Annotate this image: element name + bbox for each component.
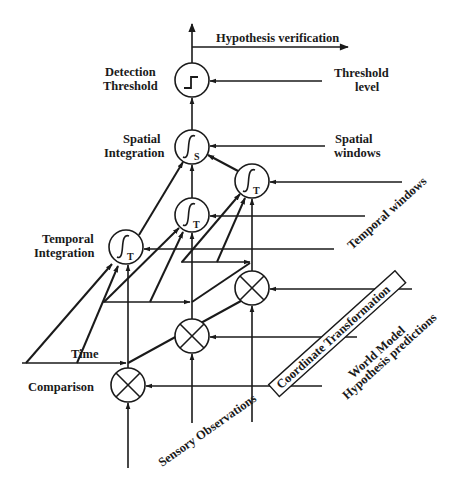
detection-threshold-label-line1: Detection [105, 65, 156, 79]
spatial-windows-label-line1: Spatial [335, 132, 373, 146]
temporal-integration-label-line2: Integration [34, 246, 94, 260]
spatial-integration-label-line1: Spatial [123, 132, 161, 146]
temporal-integrator-middle: T [175, 198, 209, 232]
time-arrow-4 [150, 232, 183, 302]
hypothesis-verification-label: Hypothesis verification [216, 31, 339, 45]
spatial-integrator-node: S [175, 130, 209, 164]
time-label: Time [71, 347, 99, 361]
temporal-integrator-back: T [235, 164, 269, 198]
spatial-subscript: S [194, 151, 200, 162]
spatial-windows-label-line2: windows [334, 146, 381, 160]
comparator-middle [175, 319, 209, 353]
spatial-integration-label-line2: Integration [104, 146, 164, 160]
temporal-subscript: T [127, 251, 134, 262]
temporal-subscript: T [253, 185, 260, 196]
temporal-integrator-front: T [109, 230, 143, 264]
front-t-to-spatial-arrow [139, 162, 183, 235]
temporal-windows-label: Temporal windows [345, 174, 430, 252]
comparator-front [111, 368, 145, 402]
hypothesis-verification-diagram: Hypothesis verification Detection Thresh… [0, 0, 455, 489]
temporal-subscript: T [193, 219, 200, 230]
time-arrow-6 [217, 198, 245, 262]
time-arrow-1 [26, 264, 112, 363]
temporal-integration-label-line1: Temporal [42, 232, 94, 246]
threshold-node [175, 63, 209, 97]
time-plane-front [22, 264, 250, 363]
comparator-back [235, 271, 269, 305]
comparison-label: Comparison [28, 380, 94, 394]
back-t-to-spatial-arrow [208, 155, 238, 171]
threshold-level-label-line1: Threshold [334, 66, 389, 80]
sensory-observations-label: Sensory Observations [156, 391, 259, 469]
detection-threshold-label-line2: Threshold [103, 79, 158, 93]
threshold-level-label-line2: level [355, 80, 380, 94]
